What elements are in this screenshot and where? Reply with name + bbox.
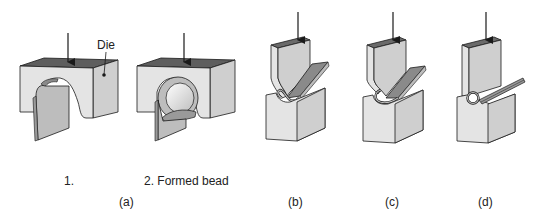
- die-c: [363, 12, 426, 143]
- panel-a-label: (a): [119, 196, 134, 208]
- step-2-label: 2. Formed bead: [144, 175, 229, 187]
- die-callout-label: Die: [97, 39, 115, 51]
- panel-d-label: (d): [478, 196, 493, 208]
- beading-diagram: [0, 0, 541, 213]
- die-d: [457, 12, 525, 143]
- die-step-2: [137, 33, 235, 141]
- panel-c-label: (c): [385, 196, 399, 208]
- step-1-label: 1.: [64, 175, 74, 187]
- panel-b-label: (b): [288, 196, 303, 208]
- die-b: [266, 12, 329, 141]
